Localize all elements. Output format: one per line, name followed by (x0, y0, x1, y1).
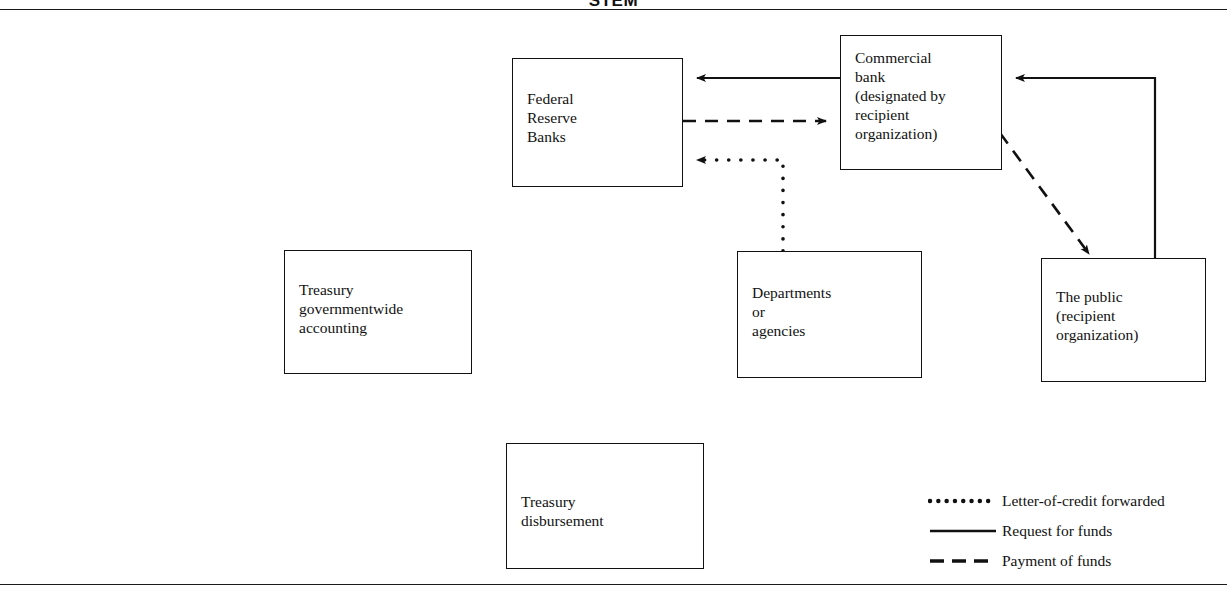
node-departments-or-agencies[interactable]: Departments or agencies (737, 251, 922, 378)
node-label: The public (recipient organization) (1056, 287, 1138, 344)
node-commercial-bank[interactable]: Commercial bank (designated by recipient… (840, 35, 1002, 170)
dashed-line-icon (928, 554, 1000, 568)
figure-title: STEM (0, 0, 1227, 11)
node-federal-reserve-banks[interactable]: Federal Reserve Banks (512, 58, 683, 187)
node-label: Federal Reserve Banks (527, 89, 577, 146)
node-treasury-governmentwide-accounting[interactable]: Treasury governmentwide accounting (284, 250, 472, 374)
node-label: Treasury governmentwide accounting (299, 280, 403, 337)
node-the-public[interactable]: The public (recipient organization) (1041, 258, 1206, 382)
node-treasury-disbursement[interactable]: Treasury disbursement (506, 443, 704, 569)
bottom-divider-rule (0, 584, 1227, 585)
legend-item-request-for-funds: Request for funds (928, 516, 1227, 546)
figure-canvas: STEM (0, 0, 1227, 596)
edge-departments-to-frb-loc (697, 160, 783, 251)
solid-line-icon (928, 524, 1000, 538)
edge-commercial-to-public-payment (1000, 133, 1089, 254)
dotted-line-icon (928, 494, 1000, 508)
legend-item-letter-of-credit: Letter-of-credit forwarded (928, 486, 1227, 516)
node-label: Departments or agencies (752, 283, 831, 340)
legend-item-payment-of-funds: Payment of funds (928, 546, 1227, 576)
node-label: Treasury disbursement (521, 492, 604, 530)
edge-public-to-commercial-request (1016, 78, 1155, 258)
legend-item-label: Payment of funds (1000, 552, 1111, 570)
node-label: Commercial bank (designated by recipient… (855, 48, 946, 143)
legend-item-label: Request for funds (1000, 522, 1112, 540)
legend: Letter-of-credit forwarded Request for f… (928, 486, 1227, 576)
legend-item-label: Letter-of-credit forwarded (1000, 492, 1165, 510)
